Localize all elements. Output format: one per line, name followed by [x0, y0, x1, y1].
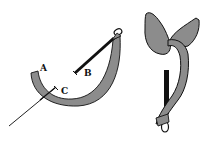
left-lobe [145, 13, 171, 55]
right-diagram [145, 13, 199, 132]
diagram-canvas [0, 0, 205, 143]
label-b: B [84, 69, 92, 78]
label-c: C [61, 87, 68, 96]
left-diagram [9, 27, 123, 126]
label-a: A [40, 64, 47, 73]
